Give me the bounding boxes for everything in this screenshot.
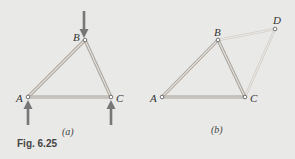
joint-b [83, 38, 87, 42]
member-ab [28, 40, 85, 97]
arrow-down-icon [80, 11, 89, 38]
truss-a [24, 11, 116, 125]
truss-diagram [0, 0, 295, 159]
node-label-d: D [273, 15, 281, 26]
member-bc [85, 40, 111, 97]
node-label-c: C [250, 93, 257, 104]
arrow-up-icon [24, 100, 33, 125]
node-label-a: A [16, 93, 23, 104]
node-label-a: A [150, 93, 157, 104]
joint-a [160, 95, 164, 99]
panel-label-b: (b) [211, 125, 223, 135]
joint-c [243, 95, 247, 99]
panel-label-a: (a) [62, 127, 74, 137]
figure-caption: Fig. 6.25 [17, 139, 57, 149]
node-label-b: B [73, 32, 80, 43]
node-label-b: B [214, 27, 221, 38]
joint-c [109, 95, 113, 99]
member-bd [218, 29, 275, 40]
joint-d [273, 27, 277, 31]
node-label-c: C [116, 93, 123, 104]
arrow-up-icon [107, 100, 116, 125]
member-ab [162, 40, 218, 97]
member-cd [245, 29, 275, 97]
joint-a [26, 95, 30, 99]
member-bc [218, 40, 245, 97]
joint-b [216, 38, 220, 42]
